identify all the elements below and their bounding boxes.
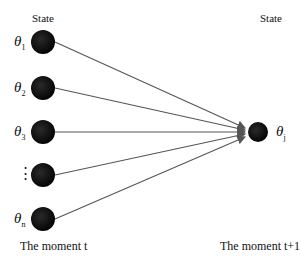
state-label-left: State [32,12,54,24]
ellipsis-label: ⋮ [18,164,33,182]
edge-n [55,137,245,219]
theta-2-label: θ2 [14,79,25,98]
node-theta-n [31,207,55,231]
diagram-canvas [0,0,301,259]
node-ellipsis [31,163,55,187]
theta-3-label: θ3 [14,123,25,142]
node-theta-3 [31,120,55,144]
moment-t-label: The moment t [20,239,87,254]
edge-2 [55,88,245,130]
theta-j-label: θj [276,123,286,142]
edge-4 [55,134,245,175]
theta-1-label: θ1 [14,33,25,52]
state-label-right: State [260,12,282,24]
node-theta-1 [31,30,55,54]
moment-t1-label: The moment t+1 [220,239,300,254]
node-theta-2 [31,76,55,100]
edge-1 [55,42,245,128]
node-theta-j [248,122,268,142]
theta-n-label: θn [14,210,25,229]
